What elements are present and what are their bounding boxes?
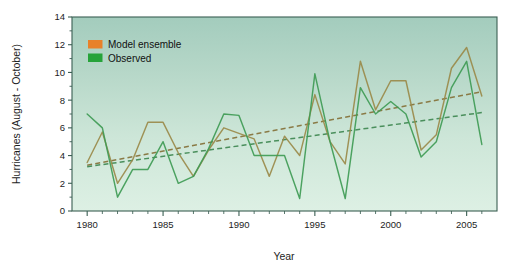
hurricanes-line-chart: 02468101214 198019851990199520002005 Hur…	[0, 0, 522, 270]
x-axis-title: Year	[273, 250, 295, 262]
y-tick-label: 6	[60, 122, 65, 133]
x-tick-label: 1990	[228, 219, 249, 230]
x-tick-label: 2005	[456, 219, 477, 230]
y-tick-label: 0	[60, 205, 65, 216]
x-tick-label: 1985	[153, 219, 174, 230]
x-axis: 198019851990199520002005	[77, 211, 482, 230]
x-tick-label: 1995	[304, 219, 325, 230]
legend-label: Model ensemble	[108, 39, 182, 50]
y-tick-label: 10	[54, 67, 65, 78]
x-tick-label: 1980	[77, 219, 98, 230]
y-tick-label: 12	[54, 39, 65, 50]
legend-swatch	[88, 40, 103, 49]
chart-figure: 02468101214 198019851990199520002005 Hur…	[0, 0, 522, 270]
legend-swatch	[88, 54, 103, 63]
y-tick-label: 2	[60, 178, 65, 189]
x-tick-label: 2000	[380, 219, 401, 230]
y-tick-label: 8	[60, 95, 65, 106]
y-axis: 02468101214	[54, 11, 72, 216]
y-tick-label: 4	[60, 150, 65, 161]
legend-label: Observed	[108, 53, 151, 64]
y-tick-label: 14	[54, 11, 65, 22]
y-axis-title: Hurricanes (August - October)	[10, 44, 22, 184]
